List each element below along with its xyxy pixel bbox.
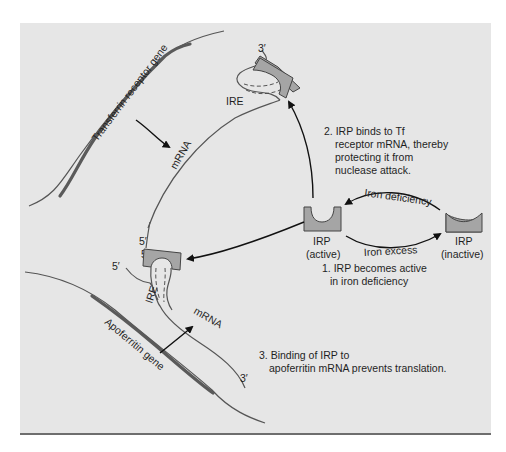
irp-to-tf-arrow (289, 102, 313, 198)
tf-transcription-arrow (136, 120, 169, 147)
apo-transcription-arrow (160, 327, 192, 353)
tf-mrna-label: mRNA (167, 138, 193, 171)
iron-excess-label: Iron excess (363, 243, 417, 258)
irp-active-state: (active) (306, 248, 340, 260)
apo-mrna-label: mRNA (192, 304, 225, 330)
apo-five-prime: 5′ (112, 260, 120, 272)
apo-three-prime: 3′ (240, 372, 248, 384)
iron-deficiency-label: Iron deficiency (364, 186, 433, 207)
svg-text:receptor mRNA, thereby: receptor mRNA, thereby (335, 138, 449, 150)
transferrin-gene-label: Transferrin receptor gene (89, 42, 170, 144)
step1-caption: 1. IRP becomes active in iron deficiency (322, 262, 427, 287)
apoferritin-gene-label: Apoferritin gene (103, 315, 168, 372)
svg-text:3. Binding of IRP to: 3. Binding of IRP to (259, 349, 349, 361)
transferrin-mrna: mRNA 5′ IRE 3′ (139, 42, 300, 247)
svg-text:nuclease attack.: nuclease attack. (335, 164, 411, 176)
step2-caption: 2. IRP binds to Tf receptor mRNA, thereb… (324, 125, 449, 176)
svg-text:in iron deficiency: in iron deficiency (330, 275, 409, 287)
svg-text:protecting it from: protecting it from (335, 151, 413, 163)
apo-ire-label: IRE (142, 284, 159, 304)
irp-inactive: IRP (inactive) (441, 213, 484, 260)
svg-text:1. IRP becomes active: 1. IRP becomes active (322, 262, 427, 274)
step3-caption: 3. Binding of IRP to apoferritin mRNA pr… (259, 349, 446, 374)
irp-inactive-state: (inactive) (441, 248, 484, 260)
irp-active-name: IRP (313, 235, 331, 247)
transferrin-receptor-gene: Transferrin receptor gene (29, 31, 224, 206)
irp-active: IRP (active) (304, 207, 341, 260)
tf-five-prime: 5′ (139, 235, 147, 247)
irp-inactive-name: IRP (455, 235, 473, 247)
irp-regulation-diagram: Transferrin receptor gene mRNA 5′ IRE 3′… (0, 0, 506, 452)
irp-to-apo-arrow (188, 222, 304, 259)
tf-three-prime: 3′ (258, 42, 266, 54)
svg-text:2. IRP binds to Tf: 2. IRP binds to Tf (324, 125, 405, 137)
tf-ire-label: IRE (226, 95, 244, 107)
irp-bound-apo-mrna (143, 249, 181, 270)
svg-text:apoferritin mRNA prevents tran: apoferritin mRNA prevents translation. (269, 362, 446, 374)
